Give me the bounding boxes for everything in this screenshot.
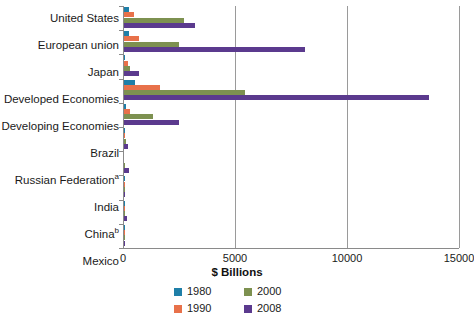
bar-2008 bbox=[124, 95, 429, 100]
legend-label-1980: 1980 bbox=[187, 286, 211, 297]
bar-2008 bbox=[124, 23, 195, 28]
bar-1990 bbox=[124, 36, 139, 41]
bar-2000 bbox=[124, 235, 125, 240]
y-axis-labels: United States European union Japan Devel… bbox=[0, 6, 119, 248]
bar-2000 bbox=[124, 42, 179, 47]
bar-2000 bbox=[124, 66, 130, 71]
bar-2000 bbox=[124, 163, 125, 168]
footnote-marker-b: b bbox=[115, 226, 119, 235]
bar-2008 bbox=[124, 192, 125, 197]
legend-swatch-1980 bbox=[174, 288, 182, 296]
bar-1980 bbox=[124, 225, 125, 230]
legend-item-2000[interactable]: 2000 bbox=[244, 286, 300, 297]
legend-item-2008[interactable]: 2008 bbox=[244, 303, 300, 314]
legend-item-1990[interactable]: 1990 bbox=[174, 303, 230, 314]
legend-swatch-1990 bbox=[174, 305, 182, 313]
y-axis-label-developing-economies: Developing Economies bbox=[0, 120, 119, 132]
bar-1990 bbox=[124, 133, 125, 138]
y-axis-label-european-union: European union bbox=[0, 39, 119, 51]
legend-item-1980[interactable]: 1980 bbox=[174, 286, 230, 297]
bar-2000 bbox=[124, 114, 153, 119]
bar-chart: United States European union Japan Devel… bbox=[0, 0, 474, 327]
footnote-marker-a: a bbox=[115, 172, 119, 181]
legend-label-1990: 1990 bbox=[187, 303, 211, 314]
bar-2000 bbox=[124, 139, 126, 144]
bar-1980 bbox=[124, 7, 129, 12]
x-axis-tick-15000: 15000 bbox=[444, 252, 474, 264]
bar-1990 bbox=[124, 182, 125, 187]
bar-1990 bbox=[124, 109, 130, 114]
y-axis-label-china: Chinab bbox=[0, 228, 119, 240]
bar-1980 bbox=[124, 31, 129, 36]
bar-group bbox=[123, 104, 459, 128]
bar-2008 bbox=[124, 144, 128, 149]
bar-1980 bbox=[124, 104, 126, 109]
x-axis-tick-5000: 5000 bbox=[223, 252, 247, 264]
bar-1990 bbox=[124, 206, 125, 211]
bar-2008 bbox=[124, 216, 127, 221]
x-axis-tick-10000: 10000 bbox=[332, 252, 363, 264]
bar-group bbox=[123, 152, 459, 176]
plot-area bbox=[123, 6, 459, 248]
bar-group bbox=[123, 176, 459, 200]
chart-legend: 1980 2000 1990 2008 bbox=[0, 286, 474, 314]
y-axis-label-brazil: Brazil bbox=[0, 147, 119, 159]
y-axis-label-developed-economies: Developed Economies bbox=[0, 93, 119, 105]
bar-group bbox=[123, 225, 459, 249]
bar-1990 bbox=[124, 61, 128, 66]
x-axis-title: $ Billions bbox=[0, 266, 474, 278]
y-axis-label-japan: Japan bbox=[0, 66, 119, 78]
bar-1980 bbox=[124, 55, 125, 60]
bar-1990 bbox=[124, 85, 160, 90]
legend-swatch-2008 bbox=[244, 305, 252, 313]
bar-2000 bbox=[124, 211, 125, 216]
bar-1990 bbox=[124, 230, 125, 235]
bar-2008 bbox=[124, 71, 139, 76]
bar-2000 bbox=[124, 187, 125, 192]
bar-group bbox=[123, 128, 459, 152]
bar-2000 bbox=[124, 90, 245, 95]
y-axis-label-russian-federation: Russian Federationa bbox=[0, 174, 119, 186]
bar-2008 bbox=[124, 168, 129, 173]
bar-2008 bbox=[124, 241, 125, 246]
bar-1980 bbox=[124, 201, 125, 206]
bar-2008 bbox=[124, 47, 305, 52]
bar-1990 bbox=[124, 12, 134, 17]
x-axis-tick-0: 0 bbox=[120, 252, 126, 264]
y-axis-label-united-states: United States bbox=[0, 12, 119, 24]
bar-group bbox=[123, 7, 459, 31]
legend-label-2008: 2008 bbox=[257, 303, 281, 314]
gridline-15000 bbox=[459, 6, 460, 248]
bar-group bbox=[123, 55, 459, 79]
bar-2000 bbox=[124, 18, 184, 23]
legend-swatch-2000 bbox=[244, 288, 252, 296]
bar-1980 bbox=[124, 176, 125, 181]
bar-1980 bbox=[124, 80, 135, 85]
legend-row-2: 1990 2008 bbox=[174, 303, 300, 314]
bar-group bbox=[123, 201, 459, 225]
bar-2008 bbox=[124, 120, 179, 125]
bar-1980 bbox=[124, 128, 125, 133]
y-axis-label-india: India bbox=[0, 201, 119, 213]
bar-group bbox=[123, 80, 459, 104]
bar-group bbox=[123, 31, 459, 55]
legend-row-1: 1980 2000 bbox=[174, 286, 300, 297]
legend-label-2000: 2000 bbox=[257, 286, 281, 297]
